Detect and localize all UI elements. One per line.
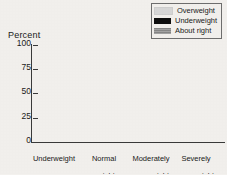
chart-legend: Overweight Underweight About right bbox=[151, 3, 222, 39]
x-label-severely-overweight: Severely overweight bbox=[165, 146, 227, 174]
x-label-line: Severely bbox=[165, 155, 227, 164]
stacked-bar-chart: Percent 100 75 50 25 0 Underweight Norma… bbox=[0, 0, 227, 174]
legend-label: Underweight bbox=[175, 17, 217, 25]
y-tick-mark bbox=[33, 142, 38, 143]
overweight-swatch-icon bbox=[154, 7, 173, 15]
y-tick-label-75: 75 bbox=[22, 63, 31, 72]
y-tick-label-100: 100 bbox=[17, 39, 31, 48]
y-tick-0: 0 bbox=[0, 142, 38, 143]
plot-area bbox=[32, 45, 225, 142]
x-label-line: overweight bbox=[165, 172, 227, 175]
legend-item-about-right[interactable]: About right bbox=[154, 26, 219, 35]
y-tick-label-25: 25 bbox=[22, 112, 31, 121]
legend-label: Overweight bbox=[177, 7, 215, 15]
legend-label: About right bbox=[175, 27, 211, 35]
x-axis-line bbox=[31, 142, 225, 143]
underweight-swatch-icon bbox=[154, 18, 171, 24]
y-tick-label-50: 50 bbox=[22, 87, 31, 96]
y-tick-label-0: 0 bbox=[26, 136, 31, 145]
legend-item-underweight[interactable]: Underweight bbox=[154, 16, 219, 25]
about-right-swatch-icon bbox=[154, 28, 171, 34]
legend-item-overweight[interactable]: Overweight bbox=[154, 6, 219, 15]
